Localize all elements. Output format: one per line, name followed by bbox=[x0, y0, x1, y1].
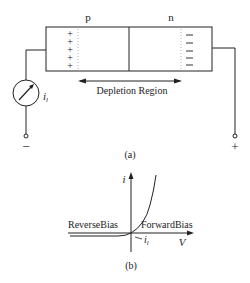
positive-terminal bbox=[233, 134, 237, 138]
negative-terminal-label: − bbox=[22, 139, 29, 154]
pn-junction-diagram: p n + + + + + Depletion Region bbox=[0, 0, 250, 283]
caption-a: (a) bbox=[124, 149, 135, 161]
p-region-label: p bbox=[85, 11, 91, 23]
caption-b: (b) bbox=[125, 260, 137, 272]
plus-charge: + bbox=[67, 60, 73, 71]
left-wire-top bbox=[26, 50, 46, 80]
negative-charges bbox=[186, 35, 193, 65]
n-region-label: n bbox=[168, 11, 174, 23]
x-axis-label: V bbox=[179, 236, 187, 248]
negative-terminal bbox=[24, 134, 28, 138]
y-axis-label: i bbox=[122, 173, 125, 185]
leakage-pointer bbox=[135, 237, 142, 239]
double-arrow-icon bbox=[78, 79, 182, 84]
y-axis-arrow-icon bbox=[129, 172, 134, 179]
depletion-region-label: Depletion Region bbox=[97, 85, 168, 96]
right-wire bbox=[212, 48, 235, 134]
meter-current-label: il bbox=[43, 90, 48, 104]
reverse-bias-label: ReverseBias bbox=[68, 219, 118, 230]
x-axis-arrow-icon bbox=[187, 231, 194, 236]
figure-a: p n + + + + + Depletion Region bbox=[13, 11, 239, 161]
figure-b: i V ReverseBias ForwardBias il (b) bbox=[68, 172, 194, 272]
leakage-current-label: il bbox=[144, 234, 149, 247]
forward-bias-label: ForwardBias bbox=[141, 219, 193, 230]
positive-terminal-label: + bbox=[231, 139, 238, 154]
positive-charges: + + + + + bbox=[67, 28, 73, 71]
ammeter-icon bbox=[13, 80, 39, 106]
